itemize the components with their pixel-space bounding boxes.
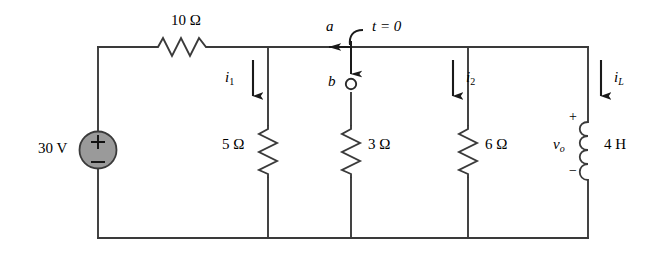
resistor-3-ohm-symbol	[342, 125, 360, 178]
inductor-minus-sign: −	[569, 164, 577, 178]
current-iL-label: iL	[614, 69, 624, 85]
inductor-voltage-subscript: o	[560, 143, 565, 154]
current-i1-label: i1	[225, 69, 234, 85]
series-resistor-label: 10 Ω	[171, 13, 201, 28]
source-label: 30 V	[38, 141, 67, 156]
inductor-plus-sign: +	[569, 110, 577, 124]
resistor-6-ohm-symbol	[459, 125, 477, 178]
inductor-symbol	[580, 122, 588, 180]
inductor-label: 4 H	[604, 137, 626, 152]
current-iL-subscript: L	[618, 76, 624, 87]
circuit-diagram: 10 Ω 30 V 5 Ω 3 Ω 6 Ω 4 H vo + − a b t =…	[0, 0, 671, 258]
inductor-voltage-label: vo	[553, 136, 565, 152]
resistor-3-ohm-label: 3 Ω	[368, 137, 390, 152]
switch-terminal-a-label: a	[326, 19, 334, 34]
current-arrows	[253, 60, 601, 96]
series-resistor-symbol	[153, 38, 216, 56]
switch-terminal-b-label: b	[328, 74, 336, 89]
current-i2-subscript: 2	[470, 76, 475, 87]
resistor-6-ohm-label: 6 Ω	[485, 137, 507, 152]
inductor-voltage-symbol: v	[553, 136, 560, 152]
wires	[98, 47, 588, 238]
current-i1-subscript: 1	[229, 76, 234, 87]
current-i2-label: i2	[466, 69, 475, 85]
voltage-source-symbol	[80, 132, 117, 169]
switch-time-label: t = 0	[372, 19, 401, 34]
resistor-5-ohm-symbol	[259, 125, 277, 178]
resistor-5-ohm-label: 5 Ω	[222, 137, 244, 152]
circuit-schematic-svg	[0, 0, 671, 258]
